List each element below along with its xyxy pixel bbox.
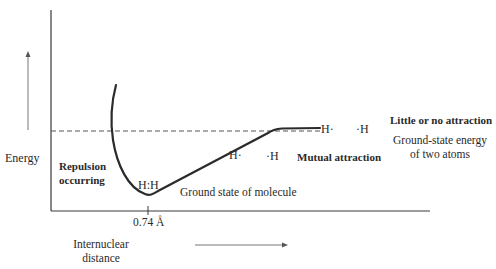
repulsion-label-2: occurring (59, 174, 105, 187)
little-attraction-label: Little or no attraction (390, 114, 492, 127)
hh-molecule-label: H:H (138, 179, 159, 192)
tick-label: 0.74 Å (133, 216, 164, 229)
repulsion-label: Repulsion (59, 160, 106, 173)
distance-right-arrow-icon (195, 243, 288, 248)
mid-h-right-label: ·H (266, 150, 279, 163)
mutual-attraction-label: Mutual attraction (297, 151, 381, 164)
far-h-left-label: H· (321, 123, 334, 136)
far-h-right-label: ·H (356, 123, 369, 136)
mid-h-left-label: H· (229, 149, 242, 162)
ground-state-molecule-label: Ground state of molecule (180, 186, 297, 199)
x-axis-label: Internuclear (68, 238, 134, 251)
ground-state-atoms-label-2: of two atoms (390, 148, 490, 161)
y-axis-label: Energy (5, 152, 39, 165)
x-axis-label-2: distance (68, 252, 134, 265)
energy-up-arrow-icon (26, 51, 31, 130)
ground-state-atoms-label: Ground-state energy (390, 134, 490, 147)
